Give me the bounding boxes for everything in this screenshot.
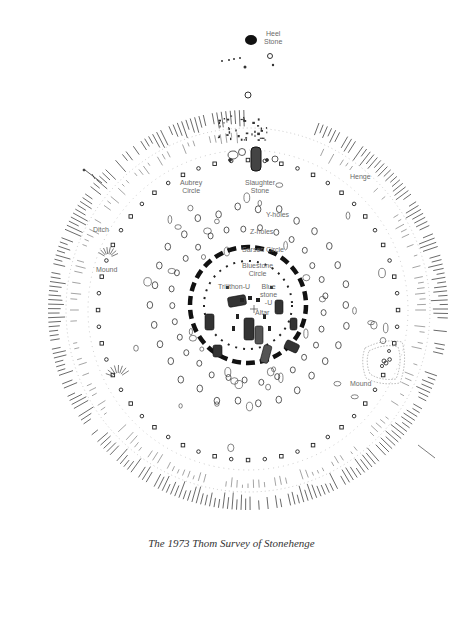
label-bluestone-u: Blue stone -U [260,283,277,307]
label-z-holes: Z-holes [250,228,273,236]
sightline-arrow [418,445,435,458]
label-bluestone-circle: Bluestone Circle [242,262,273,278]
label-aubrey-line2: Circle [180,187,202,195]
label-mound-east: Mound [350,380,371,388]
label-altar: Altar [255,309,269,317]
label-bluestone-u-line3: -U [260,299,277,307]
label-slaughter-line2: Stone [245,187,275,195]
label-bluestone-circle-line2: Circle [242,270,273,278]
label-y-holes: Y-holes [266,211,289,219]
label-slaughter-line1: Slaughter [245,179,275,187]
label-ditch: Ditch [93,226,109,234]
label-aubrey-line1: Aubrey [180,179,202,187]
label-trilithon-u: Trilithon-U [218,283,250,291]
label-heel-line2: Stone [264,38,282,46]
avenue-post-holes [218,116,267,141]
label-henge: Henge [350,173,371,181]
figure-caption: The 1973 Thom Survey of Stonehenge [0,537,463,549]
east-mound [363,341,405,384]
label-aubrey-circle: Aubrey Circle [180,179,202,195]
y-holes [147,203,349,407]
slaughter-stone [251,147,261,171]
north-arrow [83,169,102,183]
stonehenge-survey-map [0,0,463,621]
label-bluestone-u-line1: Blue [260,283,277,291]
label-heel-line1: Heel [264,30,282,38]
label-heel-stone: Heel Stone [264,30,282,46]
aubrey-holes [96,158,400,462]
stonehole-scatter [134,183,388,452]
label-mound-west: Mound [96,266,117,274]
outer-bank-hatching [48,110,448,510]
label-bluestone-circle-line1: Bluestone [242,262,273,270]
label-slaughter-stone: Slaughter Stone [245,179,275,195]
label-sarsen-circle: Sarsen Circle [242,246,284,254]
label-bluestone-u-line2: stone [260,291,277,299]
